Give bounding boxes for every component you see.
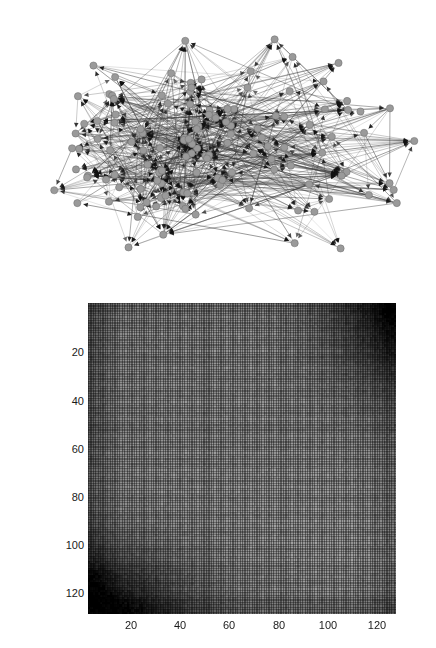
graph-node	[74, 93, 81, 100]
graph-node	[231, 105, 238, 112]
graph-node	[158, 167, 165, 174]
graph-node	[106, 147, 113, 154]
graph-node	[153, 203, 160, 210]
graph-node	[281, 113, 288, 120]
graph-node	[111, 171, 118, 178]
graph-node	[116, 184, 123, 191]
graph-node	[247, 68, 254, 75]
graph-node	[156, 145, 163, 152]
graph-node	[72, 166, 79, 173]
graph-node	[365, 191, 372, 198]
graph-node	[268, 155, 275, 162]
graph-node	[291, 240, 298, 247]
graph-node	[184, 190, 191, 197]
graph-node	[137, 126, 144, 133]
x-axis-tick-100: 100	[319, 620, 337, 631]
graph-node	[69, 145, 76, 152]
graph-node	[193, 125, 200, 132]
graph-node	[105, 198, 112, 205]
graph-node	[250, 150, 257, 157]
graph-node	[272, 112, 279, 119]
graph-node	[343, 97, 350, 104]
graph-node	[311, 208, 318, 215]
graph-node	[182, 205, 189, 212]
graph-node	[258, 134, 265, 141]
graph-node	[137, 204, 144, 211]
graph-node	[112, 74, 119, 81]
matrix-heatmap-panel: 20406080100120 20406080100120	[0, 300, 436, 648]
graph-node	[112, 111, 119, 118]
graph-node	[140, 147, 147, 154]
graph-node	[228, 169, 235, 176]
graph-node	[192, 118, 199, 125]
graph-node	[326, 195, 333, 202]
graph-node	[227, 131, 234, 138]
graph-node	[84, 174, 91, 181]
graph-node	[246, 205, 253, 212]
graph-edge-layer	[57, 42, 412, 247]
graph-node	[75, 145, 82, 152]
graph-node	[125, 244, 132, 251]
graph-node	[222, 118, 229, 125]
x-axis-tick-80: 80	[273, 620, 285, 631]
graph-node	[286, 88, 293, 95]
graph-node	[335, 59, 342, 66]
graph-node	[357, 108, 364, 115]
graph-node	[110, 95, 117, 102]
graph-node	[94, 135, 101, 142]
graph-node	[74, 199, 81, 206]
graph-node	[182, 153, 189, 160]
x-axis-tick-labels: 20406080100120	[0, 300, 436, 648]
x-axis-tick-120: 120	[368, 620, 386, 631]
graph-node	[338, 172, 345, 179]
graph-node	[271, 36, 278, 43]
graph-node	[393, 199, 400, 206]
graph-node	[289, 53, 296, 60]
graph-node	[319, 149, 326, 156]
network-graph-panel	[0, 0, 436, 300]
graph-node	[386, 105, 393, 112]
graph-node	[168, 70, 175, 77]
graph-node	[143, 199, 150, 206]
graph-node	[198, 76, 205, 83]
graph-node	[205, 111, 212, 118]
graph-node	[320, 78, 327, 85]
graph-node	[244, 84, 251, 91]
graph-node	[295, 207, 302, 214]
graph-node	[81, 120, 88, 127]
x-axis-tick-40: 40	[174, 620, 186, 631]
graph-node	[182, 37, 189, 44]
graph-node	[51, 187, 58, 194]
graph-node	[337, 245, 344, 252]
graph-node	[186, 101, 193, 108]
graph-node	[203, 155, 210, 162]
graph-node	[134, 213, 141, 220]
graph-node	[264, 143, 271, 150]
graph-node	[344, 106, 351, 113]
graph-node	[224, 139, 231, 146]
network-graph-svg	[0, 0, 436, 300]
graph-node	[271, 166, 278, 173]
graph-node	[254, 125, 261, 132]
figure-root: 20406080100120 20406080100120	[0, 0, 436, 648]
graph-node	[154, 177, 161, 184]
graph-node	[94, 117, 101, 124]
graph-node	[160, 231, 167, 238]
graph-node	[305, 181, 312, 188]
x-axis-tick-20: 20	[125, 620, 137, 631]
graph-node	[128, 138, 135, 145]
graph-node	[158, 92, 165, 99]
graph-node	[390, 186, 397, 193]
graph-node	[111, 119, 118, 126]
graph-node	[164, 100, 171, 107]
graph-node	[137, 185, 144, 192]
graph-node	[360, 129, 367, 136]
graph-node	[287, 162, 294, 169]
graph-node	[188, 84, 195, 91]
graph-node	[219, 176, 226, 183]
graph-node	[386, 180, 393, 187]
graph-node	[321, 106, 328, 113]
graph-node	[193, 169, 200, 176]
graph-node	[192, 211, 199, 218]
graph-node	[306, 121, 313, 128]
